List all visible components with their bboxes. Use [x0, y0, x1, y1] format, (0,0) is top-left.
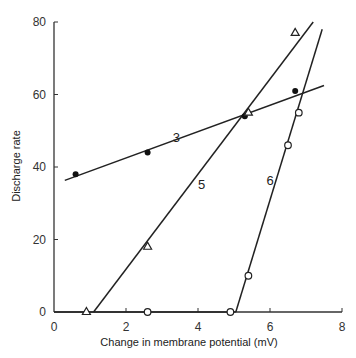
data-point-open-circle	[144, 309, 151, 316]
markers	[73, 28, 303, 315]
y-tick-label: 20	[33, 233, 47, 247]
data-point-open-circle	[285, 142, 292, 149]
axes	[54, 22, 342, 312]
data-point-filled-circle	[292, 88, 298, 94]
data-point-filled-circle	[73, 171, 79, 177]
y-tick-label: 80	[33, 15, 47, 29]
series-label-6: 6	[266, 173, 273, 188]
data-point-open-circle	[296, 109, 303, 116]
y-axis-title: Discharge rate	[10, 130, 22, 202]
data-point-open-circle	[245, 272, 252, 279]
x-tick-label: 2	[123, 320, 130, 334]
x-tick-label: 8	[339, 320, 346, 334]
y-tick-label: 40	[33, 160, 47, 174]
series-labels: 356	[173, 130, 274, 192]
fit-line-3	[65, 85, 324, 180]
y-tick-label: 60	[33, 88, 47, 102]
data-point-open-triangle	[82, 308, 90, 315]
data-point-open-circle	[227, 309, 234, 316]
y-tick-label: 0	[39, 305, 46, 319]
fit-lines	[54, 22, 324, 312]
x-tick-label: 6	[267, 320, 274, 334]
series-label-5: 5	[198, 177, 205, 192]
x-tick-label: 0	[51, 320, 58, 334]
fit-line-6	[236, 29, 322, 312]
data-point-open-triangle	[291, 28, 299, 35]
x-axis-title: Change in membrane potential (mV)	[100, 336, 277, 348]
data-point-filled-circle	[145, 150, 151, 156]
series-label-3: 3	[173, 130, 180, 145]
x-tick-label: 4	[195, 320, 202, 334]
chart: 02468020406080 356 Change in membrane po…	[0, 0, 356, 358]
